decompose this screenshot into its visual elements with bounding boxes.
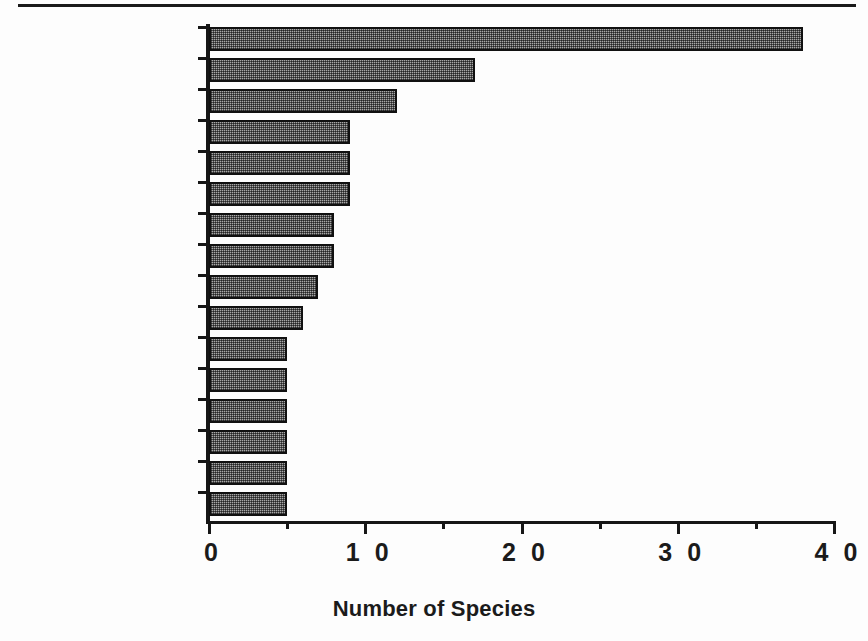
x-axis-minor-tick xyxy=(286,521,289,529)
x-axis-tick-label: 3 0 xyxy=(642,538,722,567)
y-axis-tick xyxy=(198,26,209,29)
bar xyxy=(209,306,303,330)
x-axis-major-tick xyxy=(833,521,836,534)
x-axis-minor-tick xyxy=(755,521,758,529)
y-axis-tick xyxy=(198,305,209,308)
x-axis-major-tick xyxy=(208,521,211,534)
y-axis-tick xyxy=(198,243,209,246)
bar-chart-plot-area: FERNSGRAMINEAEARACEAEASCLEPIADACEAEMARAN… xyxy=(0,0,868,641)
x-axis-tick-label: 4 0 xyxy=(798,538,868,567)
x-axis-minor-tick xyxy=(599,521,602,529)
y-axis-tick xyxy=(198,181,209,184)
x-axis-tick-label: 1 0 xyxy=(329,538,409,567)
y-axis-tick xyxy=(198,460,209,463)
y-axis-tick xyxy=(198,274,209,277)
y-axis-tick xyxy=(198,491,209,494)
x-axis-title: Number of Species xyxy=(0,596,868,622)
x-axis-tick-label: 2 0 xyxy=(486,538,566,567)
y-axis-tick xyxy=(198,119,209,122)
y-axis-tick xyxy=(198,429,209,432)
bar xyxy=(209,27,803,51)
x-axis-tick-label: 0 xyxy=(173,538,253,567)
bar xyxy=(209,492,287,516)
bar xyxy=(209,120,350,144)
bar xyxy=(209,89,397,113)
y-axis-tick xyxy=(198,367,209,370)
bar xyxy=(209,182,350,206)
x-axis-minor-tick xyxy=(442,521,445,529)
bar xyxy=(209,58,475,82)
bar xyxy=(209,244,334,268)
x-axis-major-tick xyxy=(364,521,367,534)
x-axis-major-tick xyxy=(677,521,680,534)
bar xyxy=(209,337,287,361)
y-axis-tick xyxy=(198,88,209,91)
x-axis-major-tick xyxy=(521,521,524,534)
y-axis-tick xyxy=(198,150,209,153)
bar xyxy=(209,461,287,485)
y-axis-tick xyxy=(198,212,209,215)
y-axis-tick xyxy=(198,336,209,339)
figure-canvas: FERNSGRAMINEAEARACEAEASCLEPIADACEAEMARAN… xyxy=(0,0,868,641)
bar xyxy=(209,368,287,392)
bar xyxy=(209,430,287,454)
y-axis-tick xyxy=(198,398,209,401)
bar xyxy=(209,151,350,175)
bar xyxy=(209,399,287,423)
bar xyxy=(209,275,318,299)
bar xyxy=(209,213,334,237)
y-axis-tick xyxy=(198,57,209,60)
